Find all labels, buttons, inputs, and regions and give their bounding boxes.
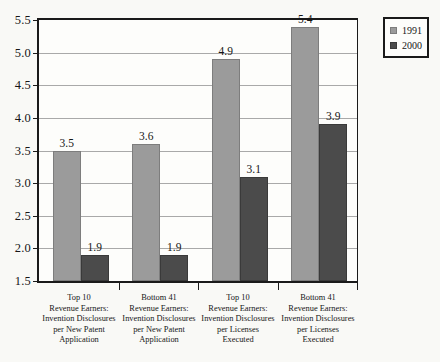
legend-item-2000: 2000	[390, 38, 427, 53]
y-axis-tick-label: 4.5	[15, 79, 31, 92]
bar-2000-group-4	[319, 124, 347, 281]
category-label-line: Executed	[278, 335, 358, 346]
category-label-line: Top 10	[198, 293, 278, 304]
category-label-line: Invention Disclosures	[198, 314, 278, 325]
category-label-line: Invention Disclosures	[119, 314, 199, 325]
category-label-line: Top 10	[39, 293, 119, 304]
bar-2000-group-3	[240, 177, 268, 281]
x-axis-tick	[357, 283, 358, 290]
category-label-4: Bottom 41Revenue Earners:Invention Discl…	[278, 293, 358, 346]
legend-item-1991: 1991	[390, 23, 427, 38]
legend: 1991 2000	[383, 17, 429, 58]
bar-1991-group-2	[132, 144, 160, 281]
category-label-line: per New Patent	[119, 325, 199, 336]
category-label-line: Revenue Earners:	[39, 304, 119, 315]
x-axis-tick	[278, 283, 279, 290]
category-label-line: Application	[39, 335, 119, 346]
y-axis-tick-label: 4.0	[15, 112, 31, 125]
y-axis-tick-label: 3.5	[15, 145, 31, 158]
legend-swatch-icon-1991	[390, 27, 397, 34]
category-label-line: per New Patent	[39, 325, 119, 336]
bar-value-label: 3.6	[126, 131, 166, 143]
y-axis-tick-label: 2.0	[15, 242, 31, 255]
y-axis-tick-label: 3.0	[15, 177, 31, 190]
plot-area: 3.51.93.61.94.93.15.43.9	[37, 18, 358, 283]
bar-value-label: 3.5	[47, 138, 87, 150]
category-label-line: Revenue Earners:	[278, 304, 358, 315]
x-axis-tick	[198, 283, 199, 290]
category-label-line: per Licenses	[278, 325, 358, 336]
category-label-line: Bottom 41	[278, 293, 358, 304]
category-label-2: Bottom 41Revenue Earners:Invention Discl…	[119, 293, 199, 346]
category-label-3: Top 10Revenue Earners:Invention Disclosu…	[198, 293, 278, 346]
category-label-line: Bottom 41	[119, 293, 199, 304]
category-label-line: Revenue Earners:	[119, 304, 199, 315]
category-label-line: Executed	[198, 335, 278, 346]
bar-2000-group-1	[81, 255, 109, 281]
y-axis-tick-label: 5.5	[15, 14, 31, 27]
category-label-line: per Licenses	[198, 325, 278, 336]
category-label-line: Invention Disclosures	[278, 314, 358, 325]
category-label-line: Revenue Earners:	[198, 304, 278, 315]
bar-value-label: 1.9	[75, 242, 115, 254]
x-axis-tick	[119, 283, 120, 290]
bar-value-label: 4.9	[206, 46, 246, 58]
bar-chart: 5.55.04.54.03.53.02.52.01.5 3.51.93.61.9…	[0, 0, 440, 362]
legend-label-2000: 2000	[402, 41, 422, 51]
legend-label-1991: 1991	[402, 26, 422, 36]
bar-value-label: 3.1	[234, 164, 274, 176]
category-label-line: Invention Disclosures	[39, 314, 119, 325]
category-label-line: Application	[119, 335, 199, 346]
bar-value-label: 5.4	[285, 14, 325, 26]
bar-value-label: 1.9	[154, 242, 194, 254]
y-axis-tick-label: 2.5	[15, 210, 31, 223]
bar-value-label: 3.9	[313, 111, 353, 123]
category-label-1: Top 10Revenue Earners:Invention Disclosu…	[39, 293, 119, 346]
bar-1991-group-1	[53, 151, 81, 282]
bar-1991-group-4	[291, 27, 319, 281]
legend-swatch-icon-2000	[390, 42, 397, 49]
y-axis-tick-label: 1.5	[15, 275, 31, 288]
y-axis-tick-label: 5.0	[15, 47, 31, 60]
bar-2000-group-2	[160, 255, 188, 281]
